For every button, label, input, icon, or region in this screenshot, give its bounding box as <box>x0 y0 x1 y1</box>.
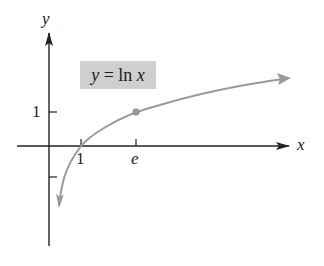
y-axis-label: y <box>42 10 50 27</box>
fn-lhs: y <box>91 65 99 86</box>
fn-x: x <box>137 65 145 86</box>
x-tick-label-1: 1 <box>76 150 85 167</box>
fn-ln: ln <box>118 65 137 86</box>
x-tick-label-e: e <box>131 150 139 167</box>
ln-graph <box>0 0 324 266</box>
function-label-box: y = ln x <box>80 61 156 89</box>
point-e-1 <box>133 109 139 115</box>
fn-eq: = <box>99 65 118 86</box>
y-tick-label-1: 1 <box>32 103 41 120</box>
x-axis-label: x <box>297 136 305 153</box>
ln-curve <box>59 79 283 206</box>
